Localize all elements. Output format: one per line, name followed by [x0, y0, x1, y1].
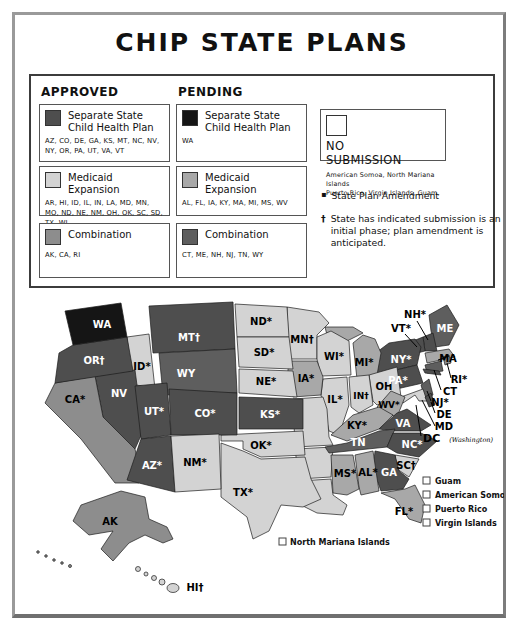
state-label-wv: WV* — [378, 400, 400, 410]
note-state-plan-amendment: ▪ State Plan Amendment — [321, 190, 503, 202]
legend-box-pending-separate: Separate State Child Health Plan WA — [176, 104, 307, 162]
state-label-nc: NC* — [402, 439, 424, 450]
legend-states-pending-combination: CT, ME, NH, NJ, TN, WY — [182, 251, 302, 261]
legend-panel: APPROVED PENDING Separate State Child He… — [29, 74, 495, 288]
territory-box-virgin-islands — [423, 519, 430, 526]
territory-label-virgin-islands: Virgin Islands — [435, 519, 497, 528]
legend-box-approved-medicaid: Medicaid Expansion AR, HI, ID, IL, IN, L… — [39, 166, 170, 216]
state-label-al: AL* — [358, 467, 378, 478]
state-label-vt: VT* — [391, 323, 412, 334]
state-label-il: IL* — [327, 394, 343, 405]
legend-box-approved-separate: Separate State Child Health Plan AZ, CO,… — [39, 104, 170, 162]
legend-box-no-submission: NO SUBMISSION American Somoa, North Mari… — [320, 109, 446, 161]
state-label-ut: UT* — [144, 406, 165, 417]
state-wy — [159, 349, 237, 395]
state-label-ga: GA — [381, 467, 397, 478]
state-label-ms: MS* — [334, 468, 357, 479]
legend-header-pending: PENDING — [178, 85, 243, 99]
legend-states-approved-separate: AZ, CO, DE, GA, KS, MT, NC, NV, NY, OR, … — [45, 137, 165, 157]
state-label-tx: TX* — [233, 487, 254, 498]
state-label-nm: NM* — [183, 457, 207, 468]
state-label-nv: NV — [111, 388, 127, 399]
territory-label-north-mariana: North Mariana Islands — [290, 538, 390, 547]
state-label-ne: NE* — [256, 376, 277, 387]
state-label-nj: NJ* — [431, 397, 449, 408]
territory-label-american-somoa: American Somoa — [435, 491, 504, 500]
state-label-wi: WI* — [324, 351, 345, 362]
state-label-nh: NH* — [404, 309, 427, 320]
state-label-ia: IA* — [298, 373, 315, 384]
ak-aleutian-islands — [37, 551, 72, 568]
territory-box-puerto-rico — [423, 505, 430, 512]
swatch-pending-medicaid — [182, 172, 198, 188]
state-hi-islands — [136, 567, 180, 593]
state-label-hi: HI† — [186, 582, 203, 593]
legend-label-no-submission: NO SUBMISSION — [326, 136, 422, 168]
swatch-approved-combination — [45, 229, 61, 245]
note-initial-phase: † State has indicated submission is an i… — [321, 213, 503, 249]
state-label-ct: CT — [443, 386, 457, 397]
state-label-in: IN† — [353, 391, 369, 401]
state-md — [401, 389, 427, 403]
legend-label-approved-separate: Separate State Child Health Plan — [68, 110, 164, 134]
legend-label-pending-combination: Combination — [205, 229, 301, 241]
us-map: WA OR† CA* NV ID* MT† WY UT* CO* AZ* NM*… — [18, 290, 504, 624]
state-label-ok: OK* — [250, 440, 272, 451]
legend-header-approved: APPROVED — [41, 85, 118, 99]
state-label-or: OR† — [83, 355, 104, 366]
state-label-ak: AK — [102, 516, 119, 527]
territory-label-guam: Guam — [435, 477, 461, 486]
state-label-fl: FL* — [395, 506, 414, 517]
territory-box-guam — [423, 477, 430, 484]
state-label-co: CO* — [194, 408, 216, 419]
state-label-ny: NY* — [391, 354, 413, 365]
territory-box-north-mariana — [279, 538, 286, 545]
territory-box-american-somoa — [423, 491, 430, 498]
state-label-me: ME — [437, 323, 454, 334]
asterisk-marker: ▪ — [321, 190, 326, 202]
legend-box-pending-combination: Combination CT, ME, NH, NJ, TN, WY — [176, 223, 307, 278]
page-title: CHIP STATE PLANS — [0, 28, 524, 57]
legend-states-pending-medicaid: AL, FL, IA, KY, MA, MI, MS, WV — [182, 199, 302, 209]
state-label-ri: RI* — [451, 374, 468, 385]
state-label-ks: KS* — [260, 409, 281, 420]
state-label-ca: CA* — [65, 394, 86, 405]
swatch-no-submission — [326, 115, 347, 136]
state-label-wa: WA — [93, 319, 112, 330]
legend-states-approved-combination: AK, CA, RI — [45, 251, 165, 261]
legend-label-pending-separate: Separate State Child Health Plan — [205, 110, 301, 134]
state-label-tn: TN — [350, 437, 365, 448]
state-label-az: AZ* — [142, 460, 163, 471]
state-label-wy: WY — [177, 368, 196, 379]
state-label-ma: MA — [439, 353, 457, 364]
dagger-marker: † — [321, 213, 326, 249]
state-label-ky: KY* — [347, 420, 368, 431]
state-label-de: DE — [436, 409, 451, 420]
swatch-pending-combination — [182, 229, 198, 245]
state-label-sd: SD* — [254, 347, 276, 358]
legend-label-pending-medicaid: Medicaid Expansion — [205, 172, 301, 196]
state-mt — [149, 302, 235, 353]
state-label-sc: SC† — [396, 460, 416, 471]
territory-label-puerto-rico: Puerto Rico — [435, 505, 488, 514]
legend-states-pending-separate: WA — [182, 137, 302, 147]
legend-label-approved-combination: Combination — [68, 229, 164, 241]
no-submission-line-1: American Somoa, North Mariana Islands — [326, 171, 441, 190]
state-label-pa: PA* — [388, 375, 408, 386]
legend-label-approved-medicaid: Medicaid Expansion — [68, 172, 164, 196]
state-label-nd: ND* — [250, 316, 273, 327]
state-label-dc: DC (Washington) — [423, 427, 493, 446]
state-label-mi: MI* — [355, 357, 375, 368]
state-label-id: ID* — [133, 361, 151, 372]
state-ak — [73, 491, 173, 561]
page: { "title": "CHIP STATE PLANS", "palette"… — [0, 0, 524, 637]
state-label-mt: MT† — [178, 332, 200, 343]
legend-box-approved-combination: Combination AK, CA, RI — [39, 223, 170, 278]
swatch-approved-separate — [45, 110, 61, 126]
swatch-pending-separate — [182, 110, 198, 126]
state-label-va: VA — [396, 418, 411, 429]
swatch-approved-medicaid — [45, 172, 61, 188]
legend-box-pending-medicaid: Medicaid Expansion AL, FL, IA, KY, MA, M… — [176, 166, 307, 216]
state-label-mn: MN† — [290, 334, 313, 345]
